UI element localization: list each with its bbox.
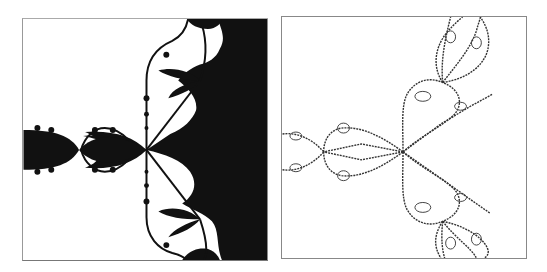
- filled-fractal-panel: [22, 18, 268, 261]
- boundary-fractal-panel: [281, 16, 527, 259]
- filled-fractal-image: [23, 19, 268, 260]
- boundary-fractal-image: [282, 17, 526, 258]
